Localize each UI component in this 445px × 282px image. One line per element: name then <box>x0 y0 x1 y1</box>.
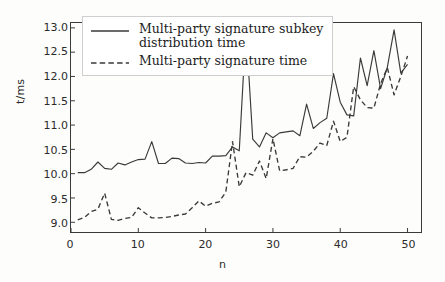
chart-legend: Multi-party signature subkey distributio… <box>82 16 333 76</box>
legend-label: Multi-party signature subkey distributio… <box>139 22 323 49</box>
legend-item-subkey-distribution-time: Multi-party signature subkey distributio… <box>90 22 323 49</box>
y-tick-label: 10.0 <box>24 168 68 181</box>
y-tick-label: 12.0 <box>24 69 68 82</box>
legend-item-signature-time: Multi-party signature time <box>90 54 323 70</box>
legend-swatch-dashed-line-icon <box>90 56 130 70</box>
x-tick-label: 50 <box>401 238 415 251</box>
chart-figure: t/ms n 9.09.510.010.511.011.512.012.513.… <box>0 0 445 282</box>
x-tick-label: 0 <box>67 238 74 251</box>
y-tick-label: 11.0 <box>24 119 68 132</box>
legend-label: Multi-party signature time <box>139 54 307 68</box>
y-tick-label: 10.5 <box>24 143 68 156</box>
x-tick-label: 10 <box>131 238 145 251</box>
y-tick-label: 9.5 <box>24 192 68 205</box>
x-tick-label: 20 <box>198 238 212 251</box>
x-tick-label: 30 <box>266 238 280 251</box>
y-tick-label: 9.0 <box>24 217 68 230</box>
y-tick-label: 11.5 <box>24 94 68 107</box>
legend-swatch-solid-line-icon <box>90 24 130 38</box>
x-tick-label: 40 <box>334 238 348 251</box>
y-tick-label: 12.5 <box>24 45 68 58</box>
x-axis-tick-labels: 01020304050 <box>0 238 445 256</box>
y-tick-label: 13.0 <box>24 20 68 33</box>
